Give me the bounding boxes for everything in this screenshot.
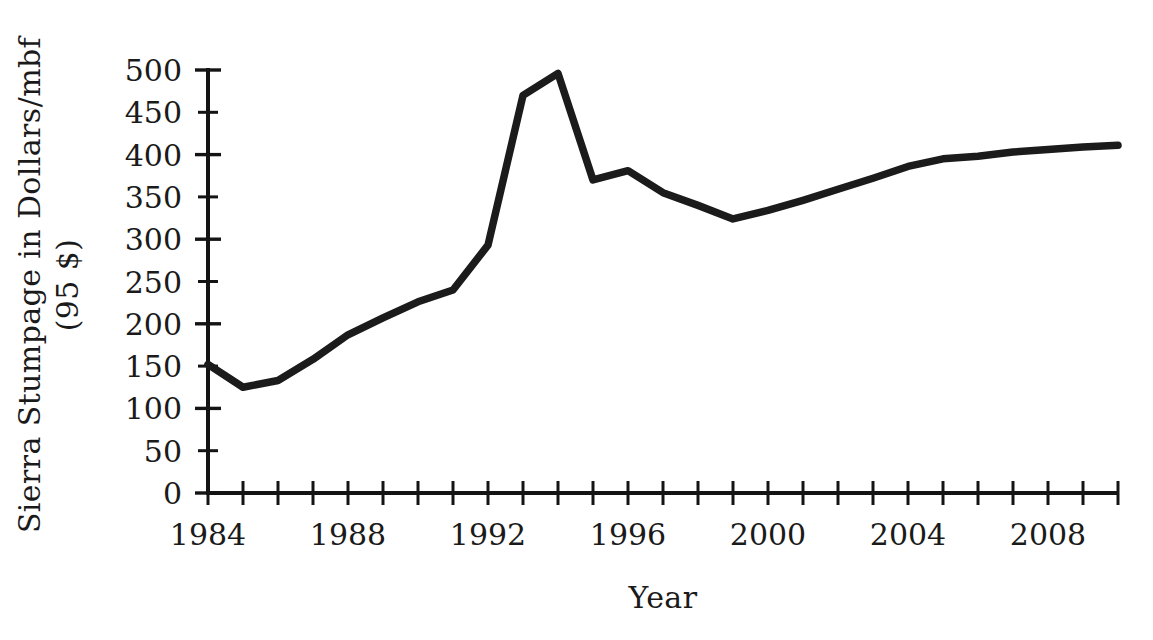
- y-axis-title-line1: Sierra Stumpage in Dollars/mbf: [12, 35, 47, 533]
- x-tick-label-2004: 2004: [870, 517, 946, 552]
- y-tick-label-0: 0: [163, 476, 182, 511]
- y-tick-label-100: 100: [125, 391, 182, 426]
- x-tick-label-1988: 1988: [310, 517, 386, 552]
- x-tick-label-1996: 1996: [590, 517, 666, 552]
- x-tick-label-2008: 2008: [1010, 517, 1086, 552]
- y-tick-label-500: 500: [125, 53, 182, 88]
- series-line-sierra-stumpage: [208, 73, 1118, 387]
- y-axis-tick-labels: 050100150200250300350400450500: [125, 53, 182, 511]
- y-tick-label-450: 450: [125, 95, 182, 130]
- y-tick-label-250: 250: [125, 265, 182, 300]
- y-tick-label-50: 50: [144, 434, 182, 469]
- y-tick-label-350: 350: [125, 180, 182, 215]
- y-axis-title: Sierra Stumpage in Dollars/mbf (95 $): [12, 35, 85, 533]
- x-axis-tick-labels: 1984198819921996200020042008: [170, 517, 1086, 552]
- y-axis-title-line2: (95 $): [50, 239, 85, 332]
- x-tick-label-1992: 1992: [450, 517, 526, 552]
- y-tick-label-150: 150: [125, 349, 182, 384]
- chart-svg: Sierra Stumpage in Dollars/mbf (95 $) Ye…: [0, 0, 1153, 640]
- y-tick-label-300: 300: [125, 222, 182, 257]
- data-series-group: [208, 73, 1118, 387]
- chart-figure: Sierra Stumpage in Dollars/mbf (95 $) Ye…: [0, 0, 1153, 640]
- x-tick-label-1984: 1984: [170, 517, 246, 552]
- y-tick-label-400: 400: [125, 138, 182, 173]
- x-axis-title: Year: [628, 580, 698, 615]
- y-tick-label-200: 200: [125, 307, 182, 342]
- x-tick-label-2000: 2000: [730, 517, 806, 552]
